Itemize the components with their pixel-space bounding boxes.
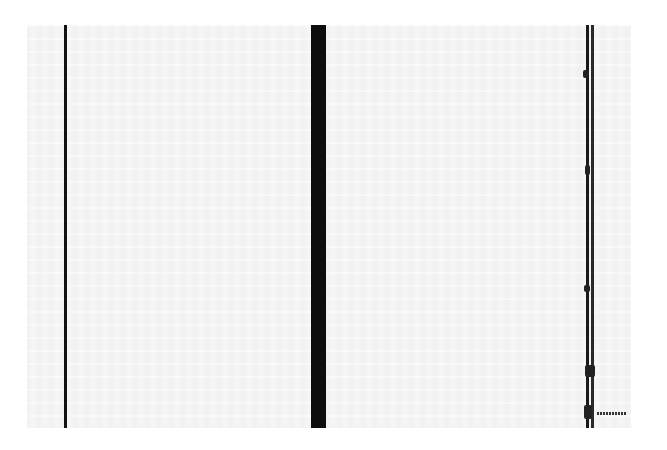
right-ragged-stripe [585,25,595,428]
painting-canvas [27,25,631,428]
artist-signature [597,412,627,415]
paint-blot [585,165,590,175]
paint-blot [585,365,595,377]
paint-blot [583,70,589,78]
left-vertical-stripe [64,25,67,428]
paint-blot [584,405,592,419]
paint-blot [584,285,590,292]
center-vertical-stripe [311,25,326,428]
